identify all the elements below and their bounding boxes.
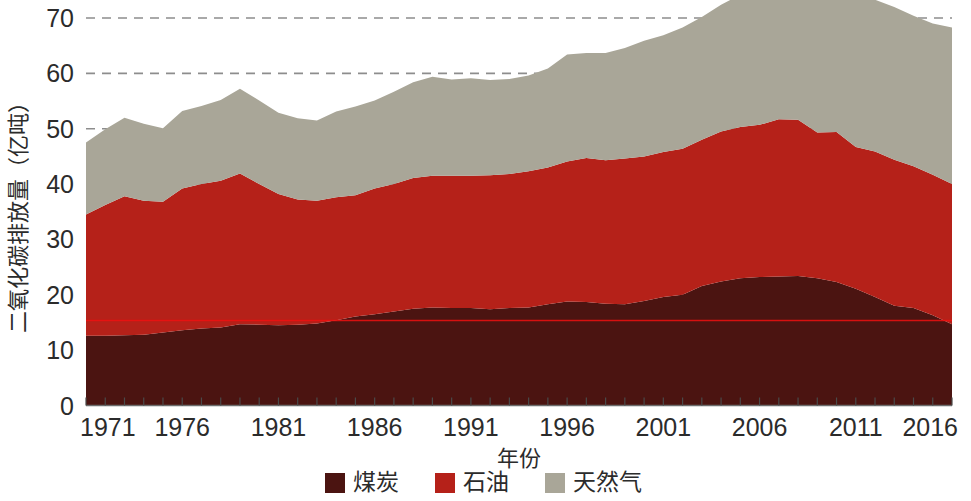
y-tick-label: 70 [46, 4, 74, 32]
x-axis-title: 年份 [497, 446, 541, 471]
legend-swatch-1 [435, 473, 455, 493]
x-tick-label: 2011 [829, 413, 883, 441]
chart-legend: 煤炭石油天然气 [325, 469, 642, 495]
y-axis-title: 二氧化碳排放量（亿吨） [6, 91, 31, 333]
co2-emissions-area-chart: 010203040506070 197119761981198619911996… [0, 0, 971, 501]
y-tick-label: 20 [46, 281, 74, 309]
legend-label-1: 石油 [463, 469, 509, 495]
legend-swatch-0 [325, 473, 345, 493]
y-tick-label: 30 [46, 225, 74, 253]
x-tick-label: 1971 [80, 413, 136, 441]
x-tick-label: 2001 [636, 413, 692, 441]
x-tick-label: 2016 [902, 413, 958, 441]
x-tick-label: 1991 [443, 413, 499, 441]
x-tick-label: 1996 [539, 413, 595, 441]
y-tick-label: 10 [46, 336, 74, 364]
stacked-areas-group [86, 0, 952, 406]
y-tick-label: 60 [46, 59, 74, 87]
legend-swatch-2 [545, 473, 565, 493]
legend-label-0: 煤炭 [353, 469, 399, 495]
x-tick-label: 2006 [732, 413, 788, 441]
y-tick-label: 50 [46, 115, 74, 143]
x-tick-label: 1986 [347, 413, 403, 441]
y-tick-label: 40 [46, 170, 74, 198]
x-axis-tick-labels: 1971197619811986199119962001200620112016 [80, 413, 958, 441]
legend-label-2: 天然气 [573, 469, 642, 495]
chart-canvas: 010203040506070 197119761981198619911996… [0, 0, 971, 501]
y-tick-label: 0 [60, 392, 74, 420]
x-tick-label: 1981 [251, 413, 307, 441]
y-axis-tick-labels: 010203040506070 [46, 4, 74, 420]
x-tick-label: 1976 [154, 413, 210, 441]
